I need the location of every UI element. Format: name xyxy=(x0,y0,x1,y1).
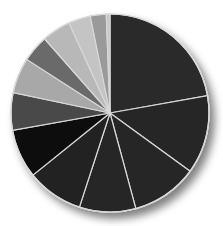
pie-slices xyxy=(11,14,209,212)
pie-chart xyxy=(0,0,223,226)
pie-chart-svg xyxy=(0,0,223,226)
